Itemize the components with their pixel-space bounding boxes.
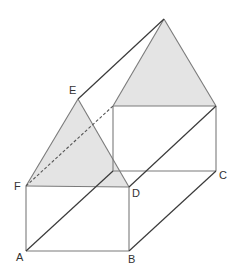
label-D: D: [132, 187, 140, 199]
label-B: B: [128, 253, 135, 265]
label-A: A: [16, 251, 24, 263]
receding-edge-D: [129, 106, 216, 187]
front-triangle-face-FED: [26, 99, 129, 187]
label-C: C: [219, 169, 227, 181]
label-F: F: [14, 180, 21, 192]
geometry-diagram: E F D C A B: [0, 0, 236, 274]
label-E: E: [69, 84, 76, 96]
edge-BC: [129, 171, 216, 251]
back-triangle-face: [113, 19, 216, 106]
